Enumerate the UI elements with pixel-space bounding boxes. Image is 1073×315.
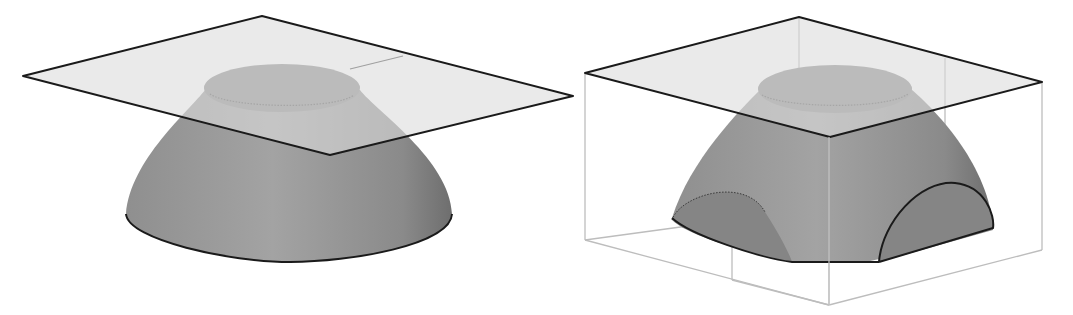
figure-canvas: [0, 0, 1073, 315]
diagram-svg: [0, 0, 1073, 315]
right-cutting-plane: [585, 17, 1042, 137]
right-panel: [585, 17, 1042, 305]
left-cutting-plane: [23, 16, 573, 155]
left-panel: [23, 16, 573, 262]
